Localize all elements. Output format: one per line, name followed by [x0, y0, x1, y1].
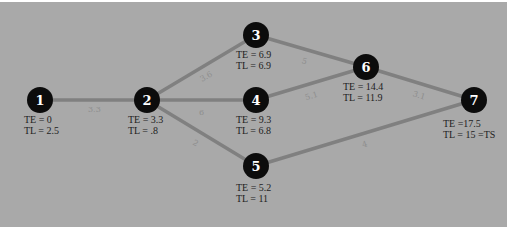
edge-3-6 — [256, 35, 366, 67]
node-2: 2 — [134, 87, 160, 113]
edge-label-2-5: 2 — [191, 138, 200, 148]
svg-text:5: 5 — [251, 159, 260, 174]
node-3-times: TE = 6.9 TL = 6.9 — [236, 49, 271, 71]
node-7-te: TE =17.5 — [443, 118, 495, 129]
node-6: 6 — [353, 54, 379, 80]
svg-text:3: 3 — [251, 28, 260, 43]
node-4-times: TE = 9.3 TL = 6.8 — [236, 114, 271, 136]
node-1: 1 — [27, 87, 53, 113]
node-1-te: TE = 0 — [24, 114, 59, 125]
svg-text:2: 2 — [142, 93, 151, 108]
node-4: 4 — [243, 87, 269, 113]
node-5-tl: TL = 11 — [236, 193, 271, 204]
node-5: 5 — [243, 153, 269, 179]
svg-text:1: 1 — [35, 93, 44, 108]
node-2-times: TE = 3.3 TL = .8 — [128, 114, 163, 136]
node-6-tl: TL = 11.9 — [343, 92, 383, 103]
node-5-times: TE = 5.2 TL = 11 — [236, 182, 271, 204]
svg-text:7: 7 — [469, 93, 478, 108]
edge-label-5-7: 4 — [361, 139, 369, 149]
diagram-panel: 3.3 3.6 6 2 5 5.1 3.1 4 1 2 3 4 5 — [0, 2, 507, 227]
node-5-te: TE = 5.2 — [236, 182, 271, 193]
svg-text:4: 4 — [251, 93, 260, 108]
node-1-times: TE = 0 TL = 2.5 — [24, 114, 59, 136]
node-6-times: TE = 14.4 TL = 11.9 — [343, 81, 383, 103]
edge-label-3-6: 5 — [301, 56, 308, 66]
edge-5-7 — [256, 100, 474, 166]
edge-label-4-6: 5.1 — [304, 90, 319, 102]
edge-label-2-4: 6 — [199, 108, 204, 117]
edge-label-6-7: 3.1 — [412, 89, 427, 101]
edge-label-2-3: 3.6 — [198, 70, 214, 84]
node-2-tl: TL = .8 — [128, 125, 163, 136]
node-7: 7 — [461, 87, 487, 113]
node-4-tl: TL = 6.8 — [236, 125, 271, 136]
svg-text:6: 6 — [361, 60, 370, 75]
node-6-te: TE = 14.4 — [343, 81, 383, 92]
node-3: 3 — [243, 22, 269, 48]
node-4-te: TE = 9.3 — [236, 114, 271, 125]
node-2-te: TE = 3.3 — [128, 114, 163, 125]
node-3-tl: TL = 6.9 — [236, 60, 271, 71]
node-7-tl: TL = 15 =TS — [443, 129, 495, 140]
node-7-times: TE =17.5 TL = 15 =TS — [443, 118, 495, 140]
edge-label-1-2: 3.3 — [88, 105, 101, 114]
node-3-te: TE = 6.9 — [236, 49, 271, 60]
node-1-tl: TL = 2.5 — [24, 125, 59, 136]
